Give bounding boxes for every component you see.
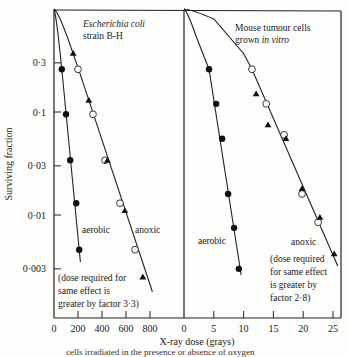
left-note-line: greater by factor 3·3) <box>58 299 139 310</box>
aerobic-point <box>219 136 225 142</box>
x-tick-label: 200 <box>71 323 86 334</box>
aerobic-point <box>231 225 237 231</box>
fit-line-aerobic <box>54 9 80 262</box>
right-note-line: (dose required <box>270 254 325 265</box>
aerobic-point <box>63 111 69 117</box>
x-tick-label: 5 <box>211 323 216 334</box>
aerobic-point <box>59 66 65 72</box>
aerobic-point <box>76 247 82 253</box>
right-panel-title-line2: grown in vitro <box>235 35 289 45</box>
x-tick-label: 0 <box>52 323 57 334</box>
y-tick-label: 0·003 <box>23 263 46 274</box>
left-aerobic-label: aerobic <box>82 225 110 235</box>
right-note: (dose required for same effect is greate… <box>270 254 327 304</box>
x-axis-ticks: 02004006008000510152025 <box>52 311 339 334</box>
anoxic-triangle-point <box>265 121 272 127</box>
aerobic-point <box>73 200 79 206</box>
anoxic-triangle-point <box>85 97 92 103</box>
right-note-line: for same effect <box>270 267 327 277</box>
anoxic-open-point <box>75 66 82 73</box>
y-tick-label: 0·1 <box>33 107 46 118</box>
aerobic-point <box>225 191 231 197</box>
anoxic-triangle-point <box>316 214 323 220</box>
fit-lines <box>54 9 338 292</box>
anoxic-open-point <box>263 100 270 107</box>
right-note-line: factor 2·8) <box>270 293 310 304</box>
x-tick-label: 20 <box>298 323 308 334</box>
right-panel-title-invitro: in vitro <box>262 35 290 45</box>
anoxic-triangle-point <box>139 274 146 280</box>
y-tick-label: 0·3 <box>33 57 46 68</box>
left-panel-title-line2: strain B-H <box>83 31 123 41</box>
anoxic-open-point <box>299 191 306 198</box>
y-tick-label: 0·03 <box>28 160 46 171</box>
aerobic-point <box>67 157 73 163</box>
aerobic-point <box>236 266 242 272</box>
left-note: (dose required for same effect is greate… <box>58 273 139 310</box>
right-note-line: is greater by <box>270 280 317 290</box>
anoxic-open-point <box>90 111 97 118</box>
x-tick-label: 25 <box>328 323 338 334</box>
anoxic-open-point <box>117 200 124 207</box>
x-tick-label: 600 <box>119 323 134 334</box>
x-tick-label: 800 <box>143 323 158 334</box>
left-panel-title-line1: Escherichia coli <box>82 19 145 29</box>
left-note-line: same effect is <box>58 286 110 296</box>
anoxic-open-point <box>249 66 256 73</box>
x-tick-label: 15 <box>268 323 278 334</box>
right-panel-title-grown: grown <box>235 35 262 45</box>
anoxic-open-point <box>132 246 139 253</box>
y-tick-label: 0·01 <box>28 210 46 221</box>
aerobic-point <box>206 66 212 72</box>
top-border <box>54 10 341 11</box>
x-tick-label: 400 <box>95 323 110 334</box>
anoxic-triangle-point <box>121 207 128 213</box>
right-anoxic-label: anoxic <box>291 237 316 247</box>
fit-line-anoxic <box>184 9 338 266</box>
anoxic-open-point <box>315 219 322 226</box>
x-tick-label: 10 <box>239 323 249 334</box>
anoxic-triangle-point <box>70 50 77 56</box>
aerobic-point <box>213 101 219 107</box>
left-note-line: (dose required for <box>58 273 127 284</box>
right-aerobic-label: aerobic <box>198 236 226 246</box>
y-axis-title: Surviving fraction <box>3 127 14 200</box>
figure-caption-fragment: cells irradiated in the presence or abse… <box>66 347 254 357</box>
x-tick-label: 0 <box>182 323 187 334</box>
left-anoxic-label: anoxic <box>135 225 160 235</box>
y-axis-ticks: 0·30·10·030·010·003 <box>23 57 61 274</box>
anoxic-triangle-point <box>253 90 260 96</box>
right-panel-title-line1: Mouse tumour cells <box>235 23 311 33</box>
